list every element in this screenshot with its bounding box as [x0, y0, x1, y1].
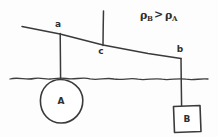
inequality-operator: >	[154, 8, 163, 21]
physics-diagram-canvas: a c b A B ρ B > ρ A	[0, 0, 218, 137]
point-label-a: a	[55, 19, 61, 29]
diagram-svg: a c b A B ρ B > ρ A	[0, 0, 218, 137]
density-inequality-annotation: ρ B > ρ A	[140, 8, 178, 23]
rho-b-subscript: B	[147, 14, 153, 23]
rho-a-subscript: A	[171, 14, 178, 23]
fulcrum-support-post	[103, 11, 104, 46]
object-a-label: A	[58, 96, 65, 106]
point-label-b: b	[177, 44, 184, 54]
water-surface-line	[10, 78, 208, 80]
object-b-label: B	[184, 114, 191, 124]
point-label-c: c	[98, 46, 103, 56]
string-to-block-b	[181, 59, 182, 107]
